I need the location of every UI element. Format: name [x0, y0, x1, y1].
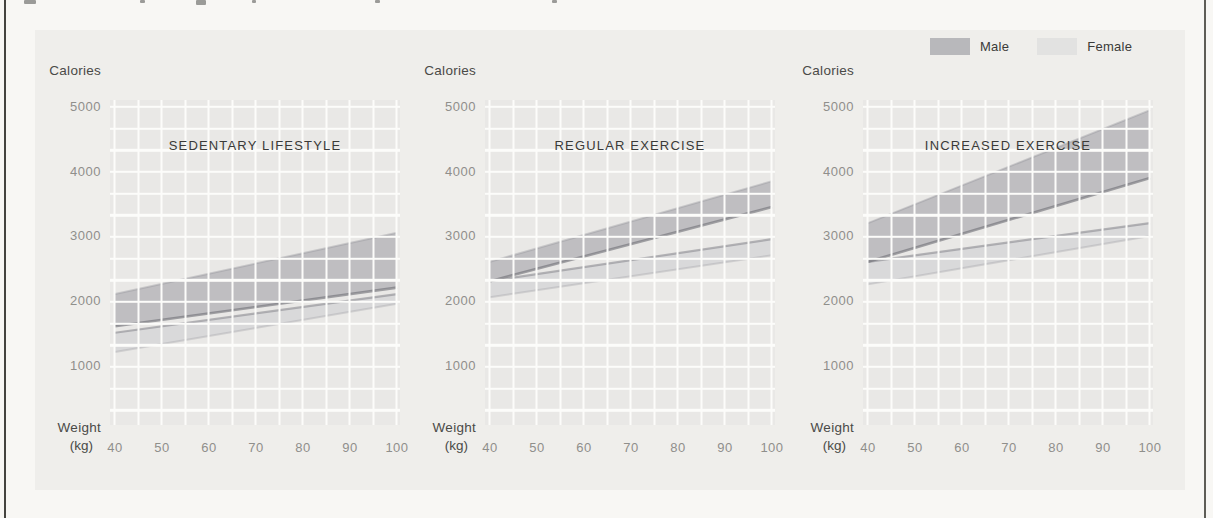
x-axis-title: Weight	[788, 420, 854, 435]
female-swatch	[1037, 38, 1077, 55]
cropped-text-fragment	[196, 0, 206, 5]
male-swatch	[930, 38, 970, 55]
cropped-text-fragment	[140, 0, 145, 3]
x-tick-label: 70	[609, 440, 653, 455]
chart-panel-regular: Calories 5000 4000 3000 2000 1000 REGULA…	[410, 60, 782, 460]
x-tick-label: 60	[187, 440, 231, 455]
chart-title: SEDENTARY LIFESTYLE	[110, 138, 400, 153]
y-tick-label: 3000	[788, 229, 854, 243]
y-axis-title: Calories	[410, 63, 476, 78]
y-tick-label: 1000	[788, 359, 854, 373]
x-tick-label: 90	[1081, 440, 1125, 455]
x-tick-label: 100	[1128, 440, 1172, 455]
x-tick-label: 80	[1034, 440, 1078, 455]
y-axis-title: Calories	[35, 63, 101, 78]
y-tick-label: 2000	[410, 294, 476, 308]
page-left-rule	[4, 0, 6, 518]
x-tick-label: 50	[515, 440, 559, 455]
y-tick-label: 2000	[35, 294, 101, 308]
female-legend-label: Female	[1087, 39, 1132, 54]
x-tick-label: 90	[328, 440, 372, 455]
y-tick-label: 3000	[35, 229, 101, 243]
chart-panel-increased: Calories 5000 4000 3000 2000 1000 INCREA…	[788, 60, 1160, 460]
cropped-text-fragment	[252, 0, 256, 3]
cropped-text-fragment	[24, 0, 36, 4]
cropped-text-fragment	[375, 0, 380, 3]
x-tick-label: 60	[562, 440, 606, 455]
plot-area: REGULAR EXERCISE	[485, 100, 775, 425]
x-tick-label: 80	[656, 440, 700, 455]
chart-title: INCREASED EXERCISE	[863, 138, 1153, 153]
y-tick-label: 3000	[410, 229, 476, 243]
y-tick-label: 1000	[35, 359, 101, 373]
x-tick-label: 40	[93, 440, 137, 455]
y-tick-label: 4000	[410, 165, 476, 179]
y-tick-label: 2000	[788, 294, 854, 308]
x-tick-label: 50	[140, 440, 184, 455]
y-tick-label: 4000	[35, 165, 101, 179]
y-tick-label: 1000	[410, 359, 476, 373]
y-axis-title: Calories	[788, 63, 854, 78]
male-legend-label: Male	[980, 39, 1009, 54]
page-right-rule	[1204, 0, 1206, 518]
x-tick-label: 70	[234, 440, 278, 455]
x-axis-unit: (kg)	[410, 438, 468, 453]
scanned-page: Male Female Calories 5000 4000 3000 2000…	[0, 0, 1213, 518]
x-tick-label: 50	[893, 440, 937, 455]
x-axis-unit: (kg)	[35, 438, 93, 453]
y-tick-label: 5000	[35, 100, 101, 114]
x-tick-label: 60	[940, 440, 984, 455]
y-tick-label: 5000	[410, 100, 476, 114]
plot-area: SEDENTARY LIFESTYLE	[110, 100, 400, 425]
y-tick-label: 4000	[788, 165, 854, 179]
x-axis-title: Weight	[35, 420, 101, 435]
x-tick-label: 40	[846, 440, 890, 455]
x-tick-label: 80	[281, 440, 325, 455]
y-tick-label: 5000	[788, 100, 854, 114]
cropped-text-fragment	[552, 0, 557, 3]
x-tick-label: 70	[987, 440, 1031, 455]
x-tick-label: 90	[703, 440, 747, 455]
legend: Male Female	[930, 38, 1132, 55]
x-tick-label: 40	[468, 440, 512, 455]
chart-panel-sedentary: Calories 5000 4000 3000 2000 1000 SEDENT…	[35, 60, 407, 460]
x-axis-unit: (kg)	[788, 438, 846, 453]
chart-title: REGULAR EXERCISE	[485, 138, 775, 153]
x-axis-title: Weight	[410, 420, 476, 435]
plot-area: INCREASED EXERCISE	[863, 100, 1153, 425]
